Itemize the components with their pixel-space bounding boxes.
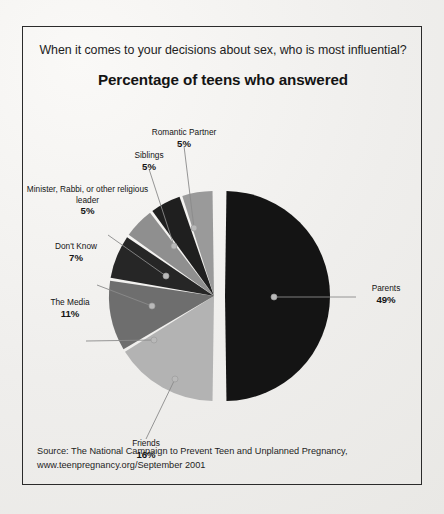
leader-line-friends [146,379,175,439]
leader-dot-friends [172,376,178,382]
leader-dot-parents [271,294,277,300]
slice-label-siblings: Siblings 5% [109,150,189,172]
pie-slice-parents[interactable] [225,191,330,401]
slice-label-siblings-name: Siblings [134,150,163,160]
slice-label-parents: Parents 49% [356,283,416,305]
slice-label-the-media-pct: 11% [25,309,115,320]
leader-dot-romantic-partner [191,225,197,231]
slice-label-the-media: The Media 11% [25,297,115,319]
slice-label-romantic-partner-pct: 5% [134,139,234,150]
source-line-1: Source: The National Campaign to Prevent… [37,445,411,459]
leader-dot-minister [163,273,169,279]
slice-label-minister-line1: Minister, Rabbi, or [27,184,94,194]
slice-label-minister: Minister, Rabbi, or other religious lead… [25,184,150,217]
slice-label-romantic-partner: Romantic Partner 5% [134,127,234,149]
slice-label-minister-pct: 5% [25,206,150,217]
source-note: Source: The National Campaign to Prevent… [37,445,411,472]
slice-label-the-media-name: The Media [50,297,89,307]
slice-label-dont-know-name: Don't Know [55,241,97,251]
source-line-2: www.teenpregnancy.org/September 2001 [37,459,411,473]
slice-label-siblings-pct: 5% [109,162,189,173]
slice-label-romantic-partner-name: Romantic Partner [152,127,217,137]
slice-label-parents-pct: 49% [356,295,416,306]
slice-label-parents-name: Parents [372,283,401,293]
leader-dot-dont-know [149,303,155,309]
leader-dot-siblings [171,243,177,249]
slice-label-dont-know-pct: 7% [31,253,121,264]
leader-dot-the-media [151,337,157,343]
slice-label-dont-know: Don't Know 7% [31,241,121,263]
infographic-panel: When it comes to your decisions about se… [22,26,422,485]
pie-chart: Romantic Partner 5% Siblings 5% Minister… [23,27,423,486]
